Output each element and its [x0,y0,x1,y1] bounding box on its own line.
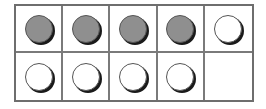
empty-counter-icon [119,63,147,91]
empty-counter-icon [166,63,194,91]
filled-counter-icon [25,15,53,43]
frame-cell [110,6,157,53]
frame-cell [158,53,205,100]
frame-cell [63,6,110,53]
empty-counter-icon [72,63,100,91]
frame-cell [16,53,63,100]
filled-counter-icon [72,15,100,43]
filled-counter-icon [166,15,194,43]
empty-counter-icon [25,63,53,91]
ten-frame [14,4,254,102]
frame-cell [63,53,110,100]
frame-cell [205,6,252,53]
frame-cell [158,6,205,53]
empty-counter-icon [214,15,242,43]
frame-cell [110,53,157,100]
filled-counter-icon [119,15,147,43]
frame-cell [16,6,63,53]
frame-cell [205,53,252,100]
